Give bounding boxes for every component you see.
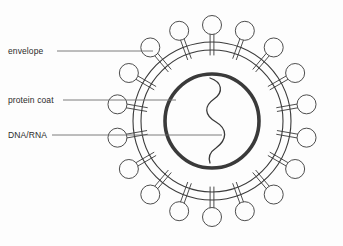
spike-stem-edge	[125, 108, 147, 112]
spike-head	[108, 95, 127, 114]
spike-head	[203, 208, 222, 227]
label-envelope: envelope	[8, 46, 43, 56]
spike-head	[286, 64, 305, 83]
spike-stem-edge	[126, 104, 148, 108]
spike-head	[108, 128, 127, 147]
spike-head	[141, 38, 160, 57]
spike-head	[264, 185, 283, 204]
label-dna-rna: DNA/RNA	[8, 130, 47, 140]
label-protein-coat: protein coat	[8, 95, 54, 105]
spike-head	[203, 16, 222, 35]
spike-stem-edge	[125, 131, 147, 135]
spike-head	[297, 95, 316, 114]
spike-head	[264, 38, 283, 57]
spike-head	[119, 64, 138, 83]
virus-diagram-canvas	[0, 0, 343, 246]
spike-head	[119, 160, 138, 179]
spike-stem-edge	[277, 134, 299, 138]
virus-diagram-page: envelope protein coat DNA/RNA	[0, 0, 343, 246]
spike-head	[235, 21, 254, 40]
spike-head	[141, 185, 160, 204]
protein-coat-circle	[165, 74, 259, 168]
spike-head	[170, 202, 189, 221]
spike-head	[235, 202, 254, 221]
spike	[203, 187, 222, 227]
spike-head	[286, 160, 305, 179]
spike-head	[170, 21, 189, 40]
spike	[203, 16, 222, 56]
spike-stem-edge	[277, 131, 299, 135]
spike-head	[297, 128, 316, 147]
protein-coat-ring	[165, 74, 259, 168]
spike-stem-edge	[277, 108, 299, 112]
spike-stem-edge	[277, 104, 299, 108]
